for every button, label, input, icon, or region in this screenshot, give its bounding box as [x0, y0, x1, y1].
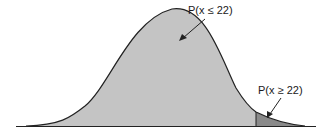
distribution-graphic [0, 0, 332, 137]
right-tail-area [256, 112, 305, 126]
left-region-area [26, 9, 256, 126]
right-arrowhead-icon [267, 111, 273, 118]
normal-distribution-diagram: P(x ≤ 22) P(x ≥ 22) [0, 0, 332, 137]
left-region-label: P(x ≤ 22) [188, 4, 233, 16]
right-label-arrow [270, 98, 281, 114]
right-tail-label: P(x ≥ 22) [258, 84, 303, 96]
